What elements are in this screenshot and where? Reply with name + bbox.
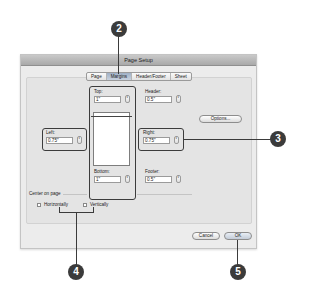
tab-bar: Page Margins Header/Footer Sheet [86,72,192,81]
right-margin-input[interactable]: 0.75" [143,137,170,144]
ok-button[interactable]: OK [224,232,252,240]
header-label: Header: [145,89,161,94]
top-margin-input[interactable]: 1" [94,96,121,103]
top-margin-stepper[interactable]: ⇕ [125,95,130,103]
top-label: Top: [94,89,103,94]
preview-grid [98,119,125,143]
callout-4-bracket-right [93,207,94,213]
footer-label: Footer: [145,169,160,174]
tab-header-footer[interactable]: Header/Footer [132,73,171,80]
center-on-page-separator [63,194,87,195]
preview-top-margin-line [91,116,132,117]
dialog-title: Page Setup [124,57,153,63]
tab-page[interactable]: Page [87,73,107,80]
page-preview [93,112,130,166]
callout-3-badge: 3 [270,131,286,147]
left-margin-input[interactable]: 0.75" [46,137,73,144]
horizontally-label[interactable]: Horizontally [44,202,68,207]
callout-2-badge: 2 [111,21,127,37]
tab-margins[interactable]: Margins [107,73,132,80]
options-button[interactable]: Options... [199,115,242,123]
dialog-titlebar[interactable]: Page Setup [21,55,256,66]
right-margin-stepper[interactable]: ⇕ [174,136,179,144]
header-margin-stepper[interactable]: ⇕ [176,95,181,103]
callout-4-leader [76,212,77,265]
callout-5-leader [237,240,238,265]
bottom-margin-input[interactable]: 1" [94,176,121,183]
center-on-page-label: Center on page [29,191,61,196]
page-setup-dialog: Page Setup Page Margins Header/Footer Sh… [20,54,257,249]
callout-3-leader [183,139,271,140]
callout-4-badge: 4 [68,264,84,280]
horizontally-checkbox[interactable] [37,203,41,207]
vertically-checkbox[interactable] [83,203,87,207]
bottom-margin-stepper[interactable]: ⇕ [125,175,130,183]
cancel-button[interactable]: Cancel [192,232,220,240]
left-label: Left: [46,130,55,135]
footer-margin-stepper[interactable]: ⇕ [176,175,181,183]
bottom-label: Bottom: [94,169,110,174]
callout-4-bracket-left [59,207,60,213]
callout-5-badge: 5 [230,264,246,280]
right-label: Right: [143,130,155,135]
footer-margin-input[interactable]: 0.5" [145,176,172,183]
callout-2-leader [118,36,119,74]
header-margin-input[interactable]: 0.5" [145,96,172,103]
left-margin-stepper[interactable]: ⇕ [77,136,82,144]
center-on-page-separator-right [137,194,192,195]
tab-sheet[interactable]: Sheet [171,73,191,80]
